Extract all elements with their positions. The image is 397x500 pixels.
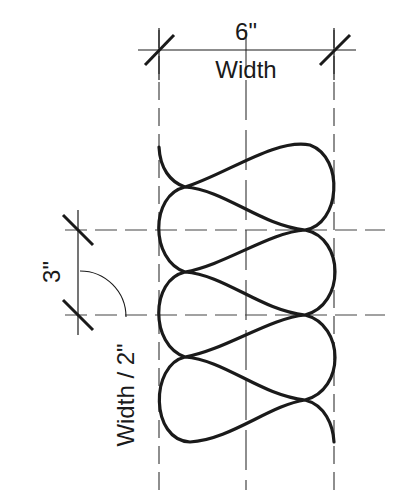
insulation-diagram: 6" Width 3" Width / 2"	[0, 0, 397, 500]
horizontal-guides	[65, 230, 385, 315]
left-dimension-value: 3"	[38, 261, 65, 283]
left-dimension	[63, 210, 126, 335]
top-dimension-label: Width	[215, 56, 276, 83]
left-dimension-label: Width / 2"	[112, 343, 139, 446]
vertical-guides	[159, 30, 334, 490]
angle-arc	[80, 271, 126, 317]
top-dimension-value: 6"	[235, 18, 257, 45]
insulation-loop-curve	[159, 144, 335, 442]
